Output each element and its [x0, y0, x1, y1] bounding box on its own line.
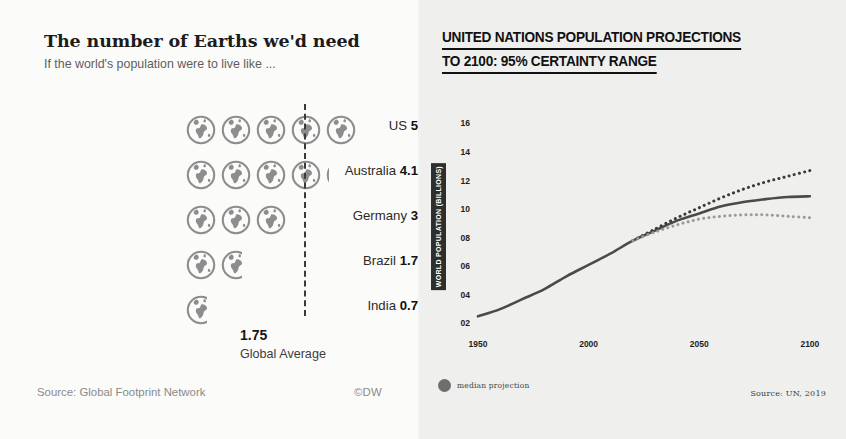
legend-label: median projection	[457, 381, 529, 390]
country-label: India 0.7	[266, 298, 418, 313]
un-projection-panel: UNITED NATIONS POPULATION PROJECTIONS TO…	[420, 0, 846, 439]
projection-curves	[420, 0, 846, 439]
country-value: 5	[411, 118, 418, 133]
earth-globe-icon-partial	[325, 159, 329, 191]
right-source-note: Source: UN, 2019	[750, 389, 826, 398]
country-row: India 0.7	[0, 287, 418, 332]
country-label: Brazil 1.7	[266, 253, 418, 268]
earth-globe-icon	[220, 204, 252, 236]
earth-globe-icon	[185, 159, 217, 191]
country-row: Germany 3	[0, 197, 418, 242]
global-average-caption: Global Average	[240, 347, 326, 361]
global-average-line	[304, 104, 306, 316]
population-chart: WORLD POPULATION (BILLIONS) 020406081012…	[420, 0, 846, 439]
earth-globe-icon	[255, 114, 287, 146]
country-name: US	[389, 118, 407, 133]
earth-globe-icon	[185, 204, 217, 236]
earth-globe-icon	[185, 249, 217, 281]
earth-icon-group	[185, 290, 210, 330]
page-subtitle: If the world's population were to live l…	[44, 57, 276, 71]
earth-icon-group	[185, 110, 360, 150]
earth-globe-icon-partial	[185, 294, 207, 326]
earth-globe-icon	[220, 159, 252, 191]
earth-icon-group	[185, 200, 290, 240]
dw-copyright: ©DW	[354, 386, 382, 398]
country-rows: US 5Australia 4.1Germany 3Brazil 1.7Indi…	[0, 107, 418, 332]
median-projection-dot	[438, 379, 451, 392]
country-value: 0.7	[400, 298, 418, 313]
global-average-value: 1.75	[240, 327, 267, 343]
country-name: Australia	[345, 163, 396, 178]
country-name: Brazil	[363, 253, 396, 268]
country-name: India	[367, 298, 396, 313]
earth-globe-icon	[185, 114, 217, 146]
earth-globe-icon	[255, 159, 287, 191]
chart-legend: median projection	[438, 379, 529, 392]
earth-globe-icon-partial	[220, 249, 242, 281]
earth-icon-group	[185, 155, 332, 195]
infographic-page: The number of Earths we'd need If the wo…	[0, 0, 846, 439]
country-name: Germany	[353, 208, 407, 223]
country-value: 3	[411, 208, 418, 223]
earth-globe-icon	[255, 204, 287, 236]
earth-globe-icon	[290, 159, 322, 191]
page-title: The number of Earths we'd need	[44, 31, 360, 51]
series-median-projection	[478, 196, 810, 316]
earth-icon-group	[185, 245, 245, 285]
left-source-note: Source: Global Footprint Network	[37, 386, 205, 398]
country-value: 1.7	[400, 253, 418, 268]
earths-needed-panel: The number of Earths we'd need If the wo…	[0, 0, 418, 439]
country-row: Australia 4.1	[0, 152, 418, 197]
country-row: US 5	[0, 107, 418, 152]
country-row: Brazil 1.7	[0, 242, 418, 287]
earth-globe-icon	[220, 114, 252, 146]
earth-globe-icon	[325, 114, 357, 146]
earth-globe-icon	[290, 114, 322, 146]
country-value: 4.1	[400, 163, 418, 178]
